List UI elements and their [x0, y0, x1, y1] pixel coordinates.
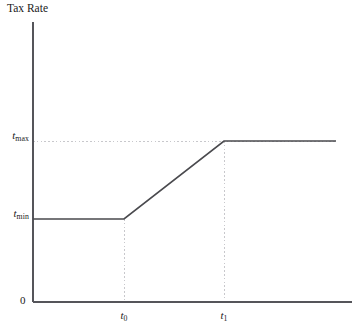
y-axis-title: Tax Rate — [7, 3, 48, 15]
x-tick-t1-subscript: 1 — [224, 314, 228, 323]
y-tick-label-tmax: tmax — [0, 130, 29, 143]
origin-label: 0 — [20, 295, 26, 306]
tax-rate-curve — [33, 141, 336, 219]
x-tick-label-t0: t0 — [112, 310, 136, 323]
x-tick-t0-subscript: 0 — [124, 314, 128, 323]
y-tick-tmin-subscript: min — [17, 212, 29, 221]
y-tick-label-tmin: tmin — [0, 208, 29, 221]
x-tick-label-t1: t1 — [212, 310, 236, 323]
tax-rate-chart: Tax Rate 0 tmax tmin t0 t1 — [0, 0, 362, 332]
y-tick-tmax-subscript: max — [15, 134, 29, 143]
chart-plot-area — [0, 0, 362, 332]
